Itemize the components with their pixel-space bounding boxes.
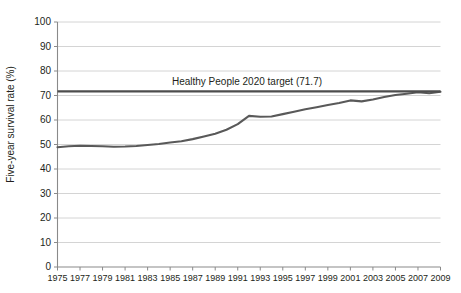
x-axis-tick-label: 1995	[273, 273, 293, 283]
gridlines	[58, 22, 441, 243]
x-axis-tick-label: 2009	[430, 273, 450, 283]
x-axis-tick-label: 2003	[363, 273, 383, 283]
x-axis-tick-label: 1989	[205, 273, 225, 283]
y-axis-tick-label: 20	[40, 212, 52, 223]
x-axis-tick-label: 1991	[228, 273, 248, 283]
y-axis-tick-label: 0	[45, 261, 51, 272]
x-axis-tick-label: 2001	[340, 273, 360, 283]
x-axis-tick-label: 1975	[47, 273, 67, 283]
y-axis: 0102030405060708090100	[34, 16, 57, 272]
y-axis-tick-label: 60	[40, 114, 52, 125]
survival-rate-line	[58, 92, 441, 147]
y-axis-tick-label: 90	[40, 41, 52, 52]
x-axis-tick-label: 1987	[183, 273, 203, 283]
x-axis-tick-label: 1993	[250, 273, 270, 283]
y-axis-tick-label: 10	[40, 237, 52, 248]
x-axis-tick-label: 1977	[70, 273, 90, 283]
x-axis-tick-label: 1985	[160, 273, 180, 283]
x-axis-tick-label: 1979	[93, 273, 113, 283]
y-axis-tick-label: 40	[40, 163, 52, 174]
y-axis-tick-label: 70	[40, 90, 52, 101]
x-axis-tick-label: 1999	[318, 273, 338, 283]
line-chart-canvas: 0102030405060708090100 19751977197919811…	[0, 0, 461, 293]
target-annotation-label: Healthy People 2020 target (71.7)	[172, 76, 322, 87]
x-axis-tick-label: 2005	[385, 273, 405, 283]
y-axis-title: Five-year survival rate (%)	[5, 66, 16, 183]
y-axis-tick-label: 100	[34, 16, 51, 27]
y-axis-tick-label: 80	[40, 65, 52, 76]
chart-figure: 0102030405060708090100 19751977197919811…	[0, 0, 461, 293]
y-axis-tick-label: 50	[40, 139, 52, 150]
x-axis-tick-label: 1983	[138, 273, 158, 283]
x-axis: 1975197719791981198319851987198919911993…	[47, 267, 450, 283]
x-axis-tick-label: 1997	[295, 273, 315, 283]
x-axis-tick-label: 1981	[115, 273, 135, 283]
x-axis-tick-label: 2007	[408, 273, 428, 283]
y-axis-tick-label: 30	[40, 188, 52, 199]
